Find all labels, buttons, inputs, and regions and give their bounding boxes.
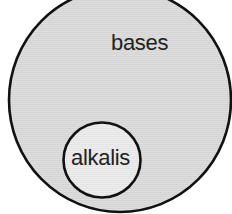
outer-set-label: bases [111,32,168,54]
inner-set-label: alkalis [71,147,130,169]
